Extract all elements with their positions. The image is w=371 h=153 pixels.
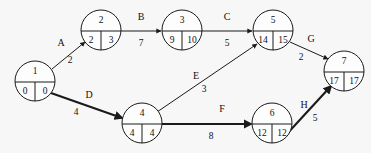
node-7[interactable]: 71717 (324, 51, 364, 91)
node-late-time-6: 12 (277, 128, 287, 138)
edge-activity-label-g: G (307, 33, 314, 44)
node-early-time-6: 12 (257, 128, 267, 138)
edge-activity-label-f: F (219, 103, 225, 114)
edge-label-group-e: E3 (193, 70, 207, 94)
edge-line-e (157, 44, 257, 112)
node-3[interactable]: 3910 (162, 10, 202, 50)
edge-label-group-b: B7 (138, 11, 145, 48)
node-id-label-7: 7 (342, 56, 347, 66)
node-4[interactable]: 444 (122, 103, 162, 143)
edge-label-group-c: C5 (224, 11, 231, 48)
node-id-label-3: 3 (180, 15, 185, 25)
edge-activity-label-b: B (138, 11, 145, 22)
node-late-time-3: 10 (187, 35, 197, 45)
edge-label-group-a: A2 (57, 37, 72, 65)
node-id-label-5: 5 (271, 15, 276, 25)
edge-activity-label-h: H (300, 99, 307, 110)
edge-activity-label-a: A (57, 37, 65, 48)
edge-duration-label-h: 5 (313, 113, 318, 123)
node-1[interactable]: 100 (15, 61, 55, 101)
edge-duration-label-f: 8 (209, 131, 214, 141)
node-id-label-4: 4 (140, 108, 145, 118)
node-late-time-7: 17 (349, 76, 359, 86)
edge-duration-label-g: 2 (299, 52, 304, 62)
network-diagram-canvas: 1002233910514157171744461212 A2B7C5G2D4E… (0, 0, 371, 153)
node-early-time-1: 0 (23, 86, 28, 96)
network-diagram: 1002233910514157171744461212 A2B7C5G2D4E… (0, 0, 371, 153)
edge-duration-label-e: 3 (202, 84, 207, 94)
edge-g (290, 42, 328, 59)
node-late-time-5: 15 (278, 35, 288, 45)
node-early-time-2: 2 (89, 35, 94, 45)
edge-label-group-g: G2 (299, 33, 315, 62)
node-early-time-7: 17 (329, 76, 339, 86)
edge-h (285, 86, 331, 136)
node-early-time-4: 4 (130, 128, 135, 138)
node-early-time-3: 9 (170, 35, 175, 45)
edge-duration-label-b: 7 (139, 38, 144, 48)
edge-line-h (285, 86, 331, 136)
edge-duration-label-d: 4 (74, 107, 79, 117)
edge-activity-label-c: C (224, 11, 231, 22)
node-late-time-4: 4 (150, 128, 155, 138)
edge-e (157, 44, 257, 112)
edge-duration-label-a: 2 (68, 55, 73, 65)
node-6[interactable]: 61212 (252, 103, 292, 143)
edge-duration-label-c: 5 (225, 38, 230, 48)
node-id-label-6: 6 (270, 108, 275, 118)
node-late-time-2: 3 (109, 35, 114, 45)
node-5[interactable]: 51415 (253, 10, 293, 50)
node-early-time-5: 14 (258, 35, 268, 45)
node-2[interactable]: 223 (81, 10, 121, 50)
edge-line-g (290, 42, 328, 59)
node-id-label-2: 2 (99, 15, 104, 25)
edge-activity-label-e: E (193, 70, 199, 81)
node-late-time-1: 0 (43, 86, 48, 96)
edge-activity-label-d: D (85, 89, 92, 100)
edge-label-group-f: F8 (209, 103, 226, 141)
node-id-label-1: 1 (33, 66, 38, 76)
